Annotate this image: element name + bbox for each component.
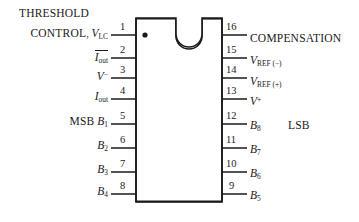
- pin-14-subscript: REF (+): [257, 80, 282, 89]
- pin-15-symbol: V: [250, 54, 257, 66]
- pin-1-label-line1: THRESHOLD: [0, 8, 108, 20]
- pin-3-superscript: −: [104, 70, 108, 79]
- pin-11-subscript: 7: [257, 148, 261, 157]
- pin-number-11: 11: [226, 135, 236, 146]
- pin-number-7: 7: [120, 159, 125, 170]
- pin-number-10: 10: [226, 159, 237, 170]
- pin-3-symbol: V: [97, 70, 104, 82]
- pin-number-3: 3: [120, 65, 125, 76]
- pin-2-overline-group: Iout: [95, 50, 108, 65]
- pin-13-superscript: +: [257, 95, 261, 104]
- pin-7-label: B3: [0, 164, 108, 176]
- pin-1-label: CONTROL, VLC: [0, 28, 108, 40]
- pin-1-subscript: LC: [99, 32, 108, 41]
- pin-15-subscript: REF (−): [257, 59, 282, 68]
- pin-3-label: V−: [0, 71, 108, 83]
- pin-number-13: 13: [226, 86, 237, 97]
- pin-16-label: COMPENSATION: [250, 33, 341, 45]
- pin-number-16: 16: [226, 22, 237, 33]
- pin-9-subscript: 5: [257, 194, 261, 203]
- pin-number-14: 14: [226, 65, 237, 76]
- msb-tag: MSB: [69, 115, 94, 127]
- pin-11-label: B7: [250, 144, 261, 156]
- pin-2-subscript: out: [99, 56, 108, 65]
- pin-1-label-line2: CONTROL: [30, 27, 86, 39]
- pin-10-subscript: 6: [257, 172, 261, 181]
- pin-4-label: Iout: [0, 91, 108, 103]
- pin-14-label: VREF (+): [250, 76, 282, 88]
- pin-15-label: VREF (−): [250, 55, 282, 67]
- pin-number-2: 2: [120, 45, 125, 56]
- pin-13-symbol: V: [250, 95, 257, 107]
- package-notch-icon: [176, 19, 202, 47]
- pin-2-label: Iout: [0, 50, 108, 65]
- pin-number-9: 9: [229, 181, 234, 192]
- pin-number-8: 8: [120, 181, 125, 192]
- pin-4-subscript: out: [99, 95, 108, 104]
- pin-12-label: B8: [250, 120, 261, 132]
- pin-9-symbol: B: [250, 189, 257, 201]
- pin-10-symbol: B: [250, 167, 257, 179]
- pin-number-15: 15: [226, 45, 237, 56]
- pin-9-label: B5: [250, 190, 261, 202]
- pin-number-5: 5: [120, 111, 125, 122]
- pin-14-symbol: V: [250, 75, 257, 87]
- pin-5-subscript: 1: [104, 120, 108, 129]
- pin-10-label: B6: [250, 168, 261, 180]
- pin-number-12: 12: [226, 111, 237, 122]
- pin-5-label: MSB B1: [0, 116, 108, 128]
- pin-12-subscript: 8: [257, 124, 261, 133]
- chip-body-outline: [136, 18, 222, 202]
- pin-11-symbol: B: [250, 143, 257, 155]
- pin-12-symbol: B: [250, 119, 257, 131]
- lsb-tag: LSB: [288, 120, 310, 132]
- pin-1-symbol: V: [92, 27, 99, 39]
- pin-6-subscript: 2: [104, 144, 108, 153]
- pin-number-1: 1: [120, 22, 125, 33]
- pin-1-dot-icon: [142, 32, 147, 37]
- pin-1-separator: ,: [86, 28, 89, 39]
- pin-8-label: B4: [0, 186, 108, 198]
- pin-6-label: B2: [0, 140, 108, 152]
- pin-13-label: V+: [250, 96, 261, 108]
- pin-number-4: 4: [120, 86, 125, 97]
- pin-number-6: 6: [120, 135, 125, 146]
- pin-8-subscript: 4: [104, 190, 108, 199]
- pin-7-subscript: 3: [104, 168, 108, 177]
